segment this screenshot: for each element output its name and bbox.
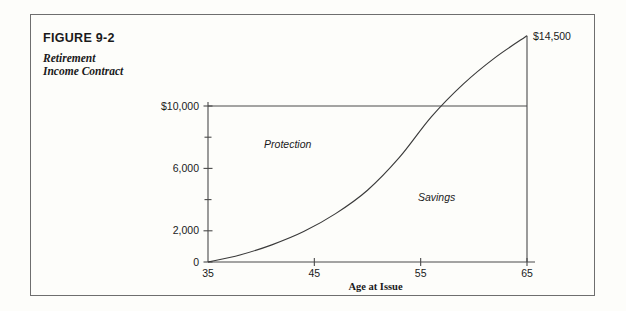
protection-region-label: Protection [264,138,311,150]
cash-value-curve [208,36,527,262]
y-tick-label-6000: 6,000 [173,162,199,174]
peak-value-label: $14,500 [533,30,571,42]
x-axis-title: Age at Issue [348,281,403,292]
x-tick-label-55: 55 [415,267,427,279]
figure-page: FIGURE 9-2 Retirement Income Contract 02… [0,0,626,311]
savings-region-label: Savings [418,191,456,203]
y-axis-tick-labels: 02,0006,000$10,000 [161,100,199,268]
y-tick-label-2000: 2,000 [173,224,199,236]
y-tick-label-0: 0 [193,256,199,268]
x-tick-label-45: 45 [308,267,320,279]
x-tick-label-35: 35 [202,267,214,279]
x-axis-tick-labels: 35455565 [202,267,533,279]
x-tick-label-65: 65 [521,267,533,279]
y-tick-label-10000: $10,000 [161,100,199,112]
chart-canvas: 02,0006,000$10,000 35455565 Protection S… [0,0,626,311]
